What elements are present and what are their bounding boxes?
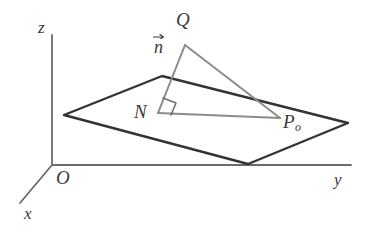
segment-Q-P0 <box>185 45 280 118</box>
x-axis <box>20 165 52 203</box>
plane-parallelogram <box>64 76 348 164</box>
origin-label: O <box>56 168 70 187</box>
point-label-p0-subscript: o <box>295 120 301 134</box>
point-label-n: N <box>134 102 147 121</box>
vector-label-n: n <box>154 38 163 56</box>
axis-label-x: x <box>24 205 32 222</box>
axis-label-y: y <box>334 171 342 188</box>
axis-label-z: z <box>38 19 45 36</box>
segment-N-P0 <box>158 113 280 118</box>
point-label-p0-base: P <box>283 111 295 132</box>
figure-canvas <box>0 0 374 237</box>
vector-label-n-base: n <box>154 37 163 57</box>
point-label-q: Q <box>176 10 190 29</box>
point-label-p0: Po <box>283 112 301 133</box>
geometry-figure: z y x O Q N Po n <box>0 0 374 237</box>
